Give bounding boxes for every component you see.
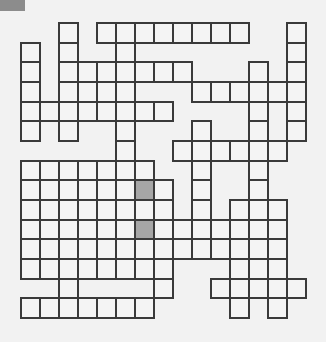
crossword-cell[interactable] (39, 219, 60, 241)
crossword-cell[interactable] (229, 297, 250, 319)
crossword-cell[interactable] (229, 258, 250, 280)
crossword-cell[interactable] (229, 140, 250, 162)
crossword-cell[interactable] (115, 219, 136, 241)
crossword-cell[interactable] (286, 120, 307, 142)
crossword-cell[interactable] (39, 160, 60, 182)
crossword-cell[interactable] (58, 219, 79, 241)
crossword-cell[interactable] (134, 297, 155, 319)
crossword-cell[interactable] (229, 81, 250, 103)
crossword-cell[interactable] (153, 179, 174, 201)
crossword-cell[interactable] (248, 199, 269, 221)
crossword-cell[interactable] (58, 179, 79, 201)
crossword-cell[interactable] (58, 199, 79, 221)
crossword-cell[interactable] (191, 140, 212, 162)
crossword-cell[interactable] (248, 258, 269, 280)
crossword-cell[interactable] (153, 22, 174, 44)
crossword-cell[interactable] (20, 160, 41, 182)
crossword-cell[interactable] (248, 238, 269, 260)
crossword-cell[interactable] (172, 238, 193, 260)
crossword-cell[interactable] (20, 120, 41, 142)
crossword-cell[interactable] (134, 101, 155, 123)
crossword-cell[interactable] (191, 81, 212, 103)
crossword-cell[interactable] (191, 120, 212, 142)
crossword-cell[interactable] (96, 258, 117, 280)
crossword-cell[interactable] (134, 160, 155, 182)
crossword-cell[interactable] (134, 258, 155, 280)
crossword-cell[interactable] (210, 81, 231, 103)
crossword-cell[interactable] (39, 179, 60, 201)
crossword-cell[interactable] (210, 22, 231, 44)
crossword-cell[interactable] (267, 140, 288, 162)
crossword-cell[interactable] (248, 179, 269, 201)
crossword-cell[interactable] (20, 61, 41, 83)
crossword-cell[interactable] (20, 219, 41, 241)
crossword-cell[interactable] (172, 61, 193, 83)
crossword-cell[interactable] (229, 278, 250, 300)
crossword-cell[interactable] (248, 140, 269, 162)
crossword-cell[interactable] (96, 297, 117, 319)
crossword-cell[interactable] (267, 258, 288, 280)
crossword-cell[interactable] (153, 101, 174, 123)
crossword-cell[interactable] (286, 42, 307, 64)
crossword-cell[interactable] (20, 101, 41, 123)
crossword-cell[interactable] (96, 22, 117, 44)
crossword-cell[interactable] (115, 42, 136, 64)
crossword-cell[interactable] (58, 258, 79, 280)
crossword-cell[interactable] (58, 278, 79, 300)
crossword-cell[interactable] (115, 179, 136, 201)
crossword-cell[interactable] (172, 219, 193, 241)
crossword-cell[interactable] (115, 101, 136, 123)
crossword-cell[interactable] (172, 140, 193, 162)
crossword-cell[interactable] (96, 179, 117, 201)
crossword-cell[interactable] (115, 61, 136, 83)
crossword-cell[interactable] (39, 238, 60, 260)
crossword-cell[interactable] (248, 278, 269, 300)
crossword-cell[interactable] (20, 199, 41, 221)
crossword-cell[interactable] (39, 199, 60, 221)
crossword-cell-shaded[interactable] (134, 219, 155, 241)
crossword-cell[interactable] (267, 238, 288, 260)
crossword-cell[interactable] (77, 238, 98, 260)
crossword-cell[interactable] (191, 179, 212, 201)
crossword-cell[interactable] (96, 101, 117, 123)
crossword-cell[interactable] (267, 199, 288, 221)
crossword-cell[interactable] (210, 238, 231, 260)
crossword-cell[interactable] (153, 258, 174, 280)
crossword-cell[interactable] (191, 160, 212, 182)
crossword-cell[interactable] (77, 258, 98, 280)
crossword-cell[interactable] (248, 61, 269, 83)
crossword-cell[interactable] (58, 22, 79, 44)
crossword-cell-shaded[interactable] (134, 179, 155, 201)
crossword-cell[interactable] (134, 61, 155, 83)
crossword-cell[interactable] (267, 278, 288, 300)
crossword-cell[interactable] (77, 81, 98, 103)
crossword-cell[interactable] (58, 81, 79, 103)
crossword-cell[interactable] (20, 297, 41, 319)
crossword-cell[interactable] (248, 160, 269, 182)
crossword-cell[interactable] (286, 81, 307, 103)
crossword-cell[interactable] (77, 61, 98, 83)
crossword-cell[interactable] (229, 22, 250, 44)
crossword-cell[interactable] (134, 22, 155, 44)
crossword-cell[interactable] (96, 61, 117, 83)
crossword-cell[interactable] (115, 238, 136, 260)
crossword-cell[interactable] (153, 278, 174, 300)
crossword-cell[interactable] (248, 101, 269, 123)
crossword-cell[interactable] (58, 120, 79, 142)
crossword-cell[interactable] (58, 160, 79, 182)
crossword-cell[interactable] (267, 297, 288, 319)
crossword-cell[interactable] (58, 101, 79, 123)
crossword-cell[interactable] (267, 81, 288, 103)
crossword-cell[interactable] (115, 120, 136, 142)
crossword-cell[interactable] (20, 81, 41, 103)
crossword-cell[interactable] (77, 219, 98, 241)
crossword-cell[interactable] (134, 238, 155, 260)
crossword-cell[interactable] (153, 219, 174, 241)
crossword-cell[interactable] (20, 42, 41, 64)
crossword-cell[interactable] (77, 179, 98, 201)
crossword-cell[interactable] (191, 238, 212, 260)
crossword-cell[interactable] (115, 81, 136, 103)
crossword-cell[interactable] (58, 238, 79, 260)
crossword-cell[interactable] (153, 238, 174, 260)
crossword-cell[interactable] (77, 297, 98, 319)
